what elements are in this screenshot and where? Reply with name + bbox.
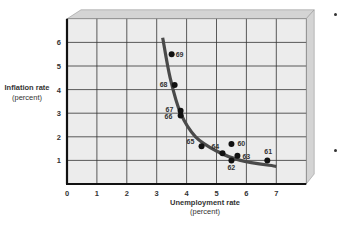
- x-tick-label: 3: [155, 189, 159, 198]
- data-point-67: [178, 108, 184, 114]
- data-point-68: [172, 82, 178, 88]
- x-axis-label: Unemployment rate (percent): [140, 198, 270, 216]
- data-point-label-62: 62: [227, 164, 235, 171]
- y-tick-label: 1: [57, 156, 61, 165]
- data-point-label-69: 69: [176, 51, 184, 58]
- data-point-69: [169, 51, 175, 57]
- data-point-65: [199, 143, 205, 149]
- x-tick-label: 6: [244, 189, 248, 198]
- data-point-label-63: 63: [242, 153, 250, 160]
- y-tick-label: 6: [57, 38, 61, 47]
- data-point-61: [264, 157, 270, 163]
- data-point-label-66: 66: [165, 113, 173, 120]
- phillips-curve-chart: 0123456712345660616263646566676869: [0, 0, 339, 227]
- data-point-63: [234, 153, 240, 159]
- plot-bevel-right: [306, 10, 314, 184]
- data-point-label-64: 64: [211, 143, 219, 150]
- x-tick-label: 1: [95, 189, 99, 198]
- x-tick-label: 7: [274, 189, 278, 198]
- x-axis-unit: (percent): [140, 207, 270, 216]
- x-axis-title: Unemployment rate: [140, 198, 270, 207]
- data-point-64: [219, 150, 225, 156]
- data-point-62: [228, 157, 234, 163]
- data-point-60: [228, 141, 234, 147]
- y-tick-label: 5: [57, 62, 61, 71]
- data-point-label-61: 61: [264, 148, 272, 155]
- y-axis-label: Inflation rate (percent): [2, 83, 52, 103]
- x-tick-label: 4: [185, 189, 190, 198]
- y-axis-unit: (percent): [2, 93, 52, 103]
- y-tick-label: 4: [57, 86, 62, 95]
- x-tick-label: 2: [125, 189, 129, 198]
- data-point-label-67: 67: [166, 106, 174, 113]
- data-point-label-68: 68: [160, 81, 168, 88]
- x-tick-label: 0: [65, 189, 69, 198]
- y-tick-label: 3: [57, 109, 61, 118]
- data-point-label-60: 60: [237, 140, 245, 147]
- data-point-label-65: 65: [187, 138, 195, 145]
- bullet-marker-2: [334, 149, 337, 152]
- x-tick-label: 5: [214, 189, 218, 198]
- plot-bevel-top: [67, 10, 314, 19]
- y-tick-label: 2: [57, 133, 61, 142]
- y-axis-title: Inflation rate: [2, 83, 52, 93]
- bullet-marker-1: [334, 13, 337, 16]
